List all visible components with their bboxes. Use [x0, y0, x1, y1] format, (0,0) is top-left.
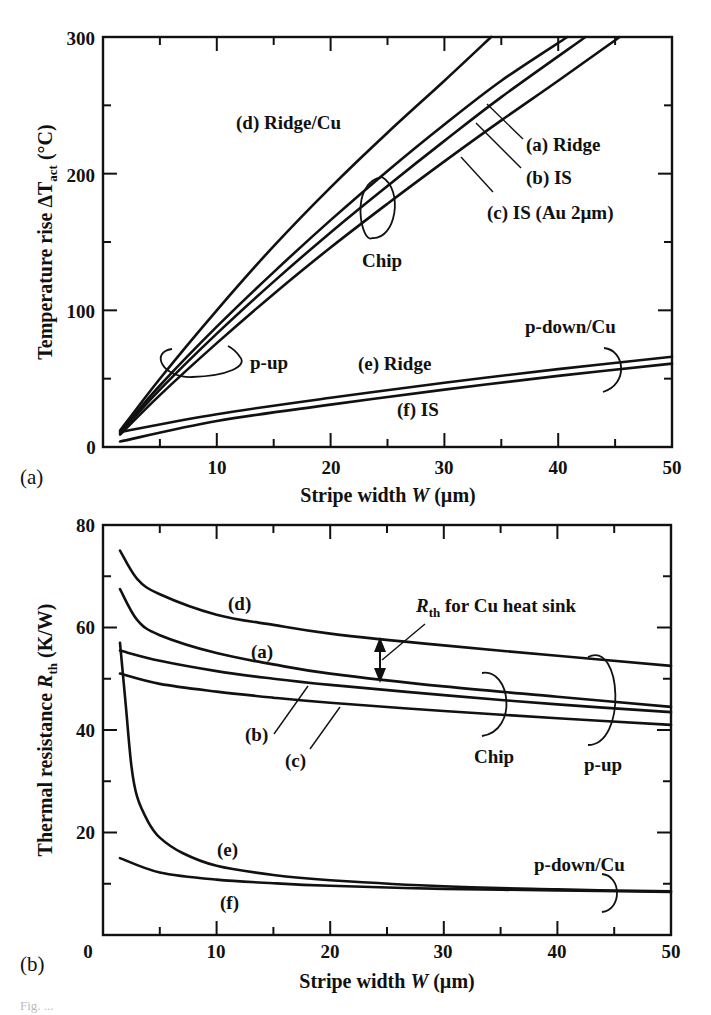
- x-tick-label: 30: [434, 941, 453, 962]
- y-tick-label: 100: [67, 301, 96, 322]
- panel-label-b: (b): [20, 952, 45, 976]
- plot-b-curves: [120, 551, 671, 892]
- plot-a-curves: [120, 37, 672, 442]
- label-a-ridge: (a) Ridge: [526, 134, 600, 156]
- label-chip: Chip: [474, 746, 514, 767]
- label-p-up: p-up: [584, 754, 622, 775]
- label-f-is: (f) IS: [397, 399, 439, 421]
- x-tick-label: 0: [86, 437, 96, 458]
- x-tick-label: 40: [549, 457, 568, 478]
- y-tick-label: 20: [76, 822, 95, 843]
- curve-d-ridge-cu: [120, 37, 491, 431]
- curve-c-is-au-2-m: [120, 37, 620, 435]
- curve-a-ridge: [120, 37, 567, 432]
- x-axis-label: Stripe width W (µm): [300, 484, 475, 507]
- label-p-down-cu: p-down/Cu: [534, 854, 625, 875]
- x-tick-label: 0: [83, 941, 93, 962]
- y-axis-label: Temperature rise ΔTact (°C): [34, 124, 60, 359]
- label-b-is: (b) IS: [526, 167, 572, 189]
- leader-c: [310, 707, 340, 749]
- label-rth-cu-heat-sink: Rth for Cu heat sink: [415, 595, 577, 620]
- panel-label-a: (a): [20, 465, 43, 489]
- y-tick-label: 200: [67, 165, 96, 186]
- label-c: (c): [285, 750, 306, 772]
- y-tick-label: 40: [76, 720, 95, 741]
- panel-a: 0 10 20 30 40 50 100 200 300 Stripe widt…: [20, 28, 682, 507]
- label-d-ridge-cu: (d) Ridge/Cu: [236, 112, 341, 134]
- label-p-down-cu: p-down/Cu: [525, 316, 616, 337]
- label-e: (e): [217, 839, 238, 861]
- x-tick-label: 20: [322, 457, 341, 478]
- x-tick-label: 50: [662, 941, 681, 962]
- label-b: (b): [245, 724, 268, 746]
- panel-b: 0 10 20 30 40 50 20 40 60 80 Stripe widt…: [20, 515, 681, 993]
- y-tick-label: 80: [76, 515, 95, 536]
- y-tick-label: 60: [76, 617, 95, 638]
- bracket-chip-b: [482, 673, 506, 736]
- x-axis-label: Stripe width W (µm): [299, 970, 474, 993]
- label-p-up: p-up: [250, 352, 288, 373]
- y-axis-label: Thermal resistance Rth (K/W): [34, 604, 60, 857]
- plot-a-frame: [103, 37, 672, 447]
- x-tick-label: 50: [663, 457, 682, 478]
- leader-b: [274, 686, 308, 734]
- x-tick-label: 20: [321, 941, 340, 962]
- label-f: (f): [220, 892, 239, 914]
- x-tick-label: 10: [207, 941, 226, 962]
- x-tick-label: 30: [435, 457, 454, 478]
- label-d: (d): [228, 593, 251, 615]
- label-c-is-au: (c) IS (Au 2µm): [487, 202, 614, 224]
- leader-c: [461, 157, 493, 192]
- x-tick-label: 40: [548, 941, 567, 962]
- label-a: (a): [251, 641, 273, 663]
- x-tick-label: 10: [208, 457, 227, 478]
- label-e-ridge: (e) Ridge: [358, 353, 431, 375]
- y-tick-label: 300: [67, 28, 96, 49]
- figure-caption: Fig. ...: [20, 998, 54, 1013]
- bracket-p-down-b: [602, 874, 617, 912]
- plot-a-ticks: [103, 37, 672, 447]
- label-chip: Chip: [362, 250, 402, 271]
- figure: 0 10 20 30 40 50 100 200 300 Stripe widt…: [0, 0, 711, 1015]
